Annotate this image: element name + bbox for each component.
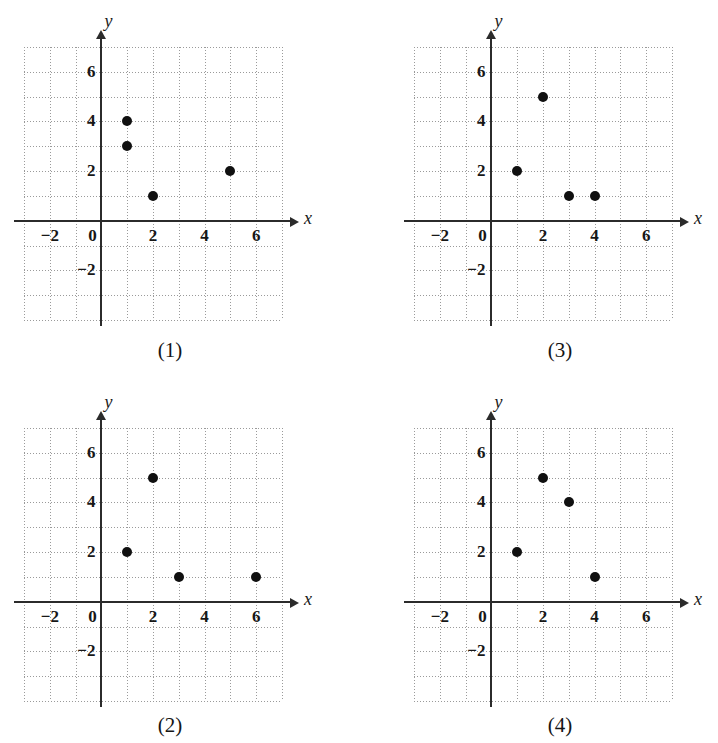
data-point <box>122 547 132 557</box>
grid-line-vertical <box>282 47 283 320</box>
x-tick-label: 2 <box>149 226 158 246</box>
grid-line-vertical <box>569 428 570 701</box>
grid-line-vertical <box>595 428 596 701</box>
x-tick-label: −2 <box>431 607 449 627</box>
y-tick-label: 2 <box>71 161 95 181</box>
x-axis-arrow-icon <box>680 217 689 227</box>
grid-line-horizontal <box>414 146 672 147</box>
data-point <box>122 116 132 126</box>
grid-line-horizontal <box>414 47 672 48</box>
grid-line-horizontal <box>24 171 282 172</box>
grid-line-horizontal <box>24 295 282 296</box>
grid-line-horizontal <box>414 196 672 197</box>
grid-line-vertical <box>440 47 441 320</box>
x-axis-label: x <box>304 208 312 229</box>
y-tick-label: −2 <box>71 641 95 661</box>
grid-line-horizontal <box>414 552 672 553</box>
grid-line-horizontal <box>24 47 282 48</box>
grid-line-vertical <box>620 47 621 320</box>
grid-line-vertical <box>282 428 283 701</box>
grid-line-horizontal <box>24 72 282 73</box>
grid-line-vertical <box>620 428 621 701</box>
grid-line-horizontal <box>24 121 282 122</box>
grid-line-vertical <box>256 47 257 320</box>
grid-line-vertical <box>179 47 180 320</box>
grid-line-horizontal <box>24 701 282 702</box>
grid-line-horizontal <box>414 527 672 528</box>
grid-line-horizontal <box>24 320 282 321</box>
grid-line-horizontal <box>24 502 282 503</box>
plot-area-1: xy−20246−2246 <box>24 47 282 320</box>
grid-line-horizontal <box>414 502 672 503</box>
x-tick-label: 4 <box>590 226 599 246</box>
grid-line-horizontal <box>414 171 672 172</box>
x-tick-label: 6 <box>252 226 261 246</box>
x-tick-label: 2 <box>149 607 158 627</box>
grid-line-vertical <box>205 47 206 320</box>
y-tick-label: −2 <box>461 641 485 661</box>
x-axis-label: x <box>694 589 702 610</box>
x-tick-label: 6 <box>642 607 651 627</box>
grid-line-horizontal <box>414 577 672 578</box>
y-tick-label: 2 <box>71 542 95 562</box>
panel-caption-4: (4) <box>390 713 718 738</box>
grid-line-vertical <box>230 47 231 320</box>
plot-area-3: xy−20246−2246 <box>414 47 672 320</box>
grid-line-horizontal <box>414 701 672 702</box>
y-axis-label: y <box>104 11 112 32</box>
x-tick-label: 6 <box>252 607 261 627</box>
grid-line-vertical <box>50 47 51 320</box>
grid-line-horizontal <box>414 320 672 321</box>
grid-line-horizontal <box>24 453 282 454</box>
x-tick-label: −2 <box>41 607 59 627</box>
panel-caption-3: (3) <box>390 338 718 363</box>
grid-line-vertical <box>595 47 596 320</box>
data-point <box>512 166 522 176</box>
y-tick-label: 6 <box>71 443 95 463</box>
y-tick-label: 6 <box>71 62 95 82</box>
data-point <box>564 191 574 201</box>
x-axis-line <box>404 601 682 603</box>
x-axis-arrow-icon <box>290 598 299 608</box>
grid-line-vertical <box>205 428 206 701</box>
y-axis-label: y <box>104 392 112 413</box>
data-point <box>512 547 522 557</box>
grid-line-vertical <box>672 47 673 320</box>
grid-line-vertical <box>569 47 570 320</box>
grid-line-vertical <box>127 47 128 320</box>
y-tick-label: 2 <box>461 542 485 562</box>
data-point <box>174 572 184 582</box>
x-tick-label: 6 <box>642 226 651 246</box>
x-tick-label: 0 <box>478 607 487 627</box>
grid-line-vertical <box>127 428 128 701</box>
grid-line-vertical <box>543 428 544 701</box>
panel-caption-1: (1) <box>0 338 340 363</box>
grid-line-horizontal <box>414 428 672 429</box>
data-point <box>225 166 235 176</box>
grid-line-horizontal <box>24 577 282 578</box>
x-axis-arrow-icon <box>680 598 689 608</box>
data-point <box>590 191 600 201</box>
y-tick-label: 6 <box>461 62 485 82</box>
y-axis-line <box>100 37 102 326</box>
data-point <box>538 473 548 483</box>
grid-line-vertical <box>646 428 647 701</box>
grid-line-horizontal <box>414 270 672 271</box>
answer-choice-graphs-figure: xy−20246−2246 (1) xy−20246−2246 (3) xy−2… <box>0 0 718 743</box>
y-tick-label: 4 <box>461 111 485 131</box>
x-tick-label: −2 <box>431 226 449 246</box>
y-tick-label: 2 <box>461 161 485 181</box>
grid-line-horizontal <box>24 527 282 528</box>
y-tick-label: 4 <box>71 111 95 131</box>
graph-panel-3: xy−20246−2246 (3) <box>390 0 718 360</box>
y-tick-label: −2 <box>71 260 95 280</box>
x-axis-line <box>14 601 292 603</box>
data-point <box>122 141 132 151</box>
x-tick-label: 0 <box>88 607 97 627</box>
grid-line-vertical <box>50 428 51 701</box>
grid-line-horizontal <box>414 453 672 454</box>
x-tick-label: 0 <box>478 226 487 246</box>
data-point <box>148 473 158 483</box>
grid-line-vertical <box>24 428 25 701</box>
grid-line-vertical <box>517 47 518 320</box>
